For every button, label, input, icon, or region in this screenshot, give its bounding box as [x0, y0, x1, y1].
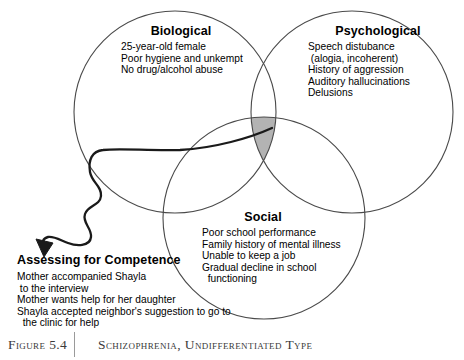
list-item: to the interview: [17, 283, 247, 295]
label-group-psychological: Psychological Speech distubance (alogia,…: [308, 24, 458, 99]
list-item: History of aggression: [308, 64, 458, 76]
biological-items: 25-year-old female Poor hygiene and unke…: [121, 41, 281, 76]
list-item: (alogia, incoherent): [308, 53, 458, 65]
list-item: Delusions: [308, 87, 458, 99]
social-title: Social: [202, 210, 324, 224]
figure-number-label: Figure 5.4: [8, 337, 67, 353]
biological-title: Biological: [123, 24, 239, 38]
figure-caption: Figure 5.4 Schizophrenia, Undifferentiat…: [0, 330, 464, 360]
list-item: Mother wants help for her daughter: [17, 294, 247, 306]
list-item: Speech distubance: [308, 41, 458, 53]
assessing-items: Mother accompanied Shayla to the intervi…: [17, 271, 247, 329]
assessing-title: Assessing for Competence: [17, 253, 247, 267]
caption-divider: [74, 332, 75, 357]
list-item: Poor school performance: [202, 227, 362, 239]
figure-schizophrenia-venn: Biological 25-year-old female Poor hygie…: [0, 0, 464, 360]
list-item: Poor hygiene and unkempt: [121, 53, 281, 65]
list-item: No drug/alcohol abuse: [121, 64, 281, 76]
list-item: Mother accompanied Shayla: [17, 271, 247, 283]
figure-title-label: Schizophrenia, Undifferentiated Type: [98, 337, 312, 353]
list-item: Shayla accepted neighbor's suggestion to…: [17, 306, 247, 318]
label-group-biological: Biological 25-year-old female Poor hygie…: [121, 24, 281, 76]
list-item: 25-year-old female: [121, 41, 281, 53]
list-item: the clinic for help: [17, 317, 247, 329]
label-group-assessing-for-competence: Assessing for Competence Mother accompan…: [17, 253, 247, 329]
list-item: Auditory hallucinations: [308, 76, 458, 88]
list-item: Family history of mental illness: [202, 239, 362, 251]
psychological-title: Psychological: [303, 24, 453, 38]
psychological-items: Speech distubance (alogia, incoherent) H…: [308, 41, 458, 99]
